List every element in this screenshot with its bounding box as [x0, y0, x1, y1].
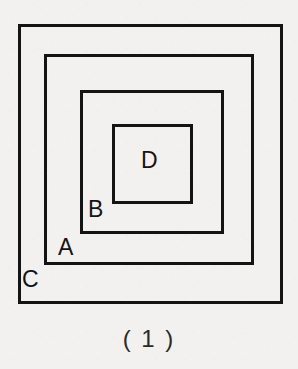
square-label-d: D [141, 149, 158, 172]
square-label-c: C [22, 268, 39, 291]
figure-caption: ( 1 ) [0, 326, 298, 352]
figure-canvas: C A B D ( 1 ) [0, 0, 298, 369]
square-label-a: A [58, 236, 73, 259]
square-label-b: B [88, 198, 103, 221]
